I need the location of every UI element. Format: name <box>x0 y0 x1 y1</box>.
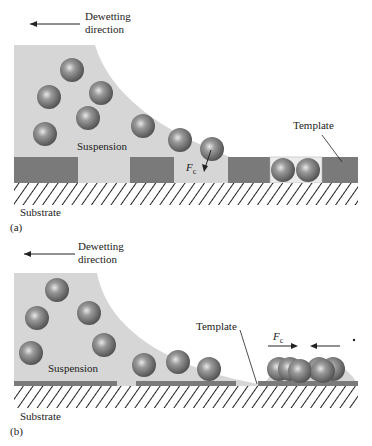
substrate-a <box>14 183 358 205</box>
template-block <box>130 157 174 183</box>
substrate-b <box>14 386 358 408</box>
direction-text: direction <box>78 253 124 266</box>
template-label-a: Template <box>293 119 334 132</box>
substrate-label-a: Substrate <box>20 206 61 219</box>
template-block <box>228 157 270 183</box>
template-strip <box>14 381 117 386</box>
template-label-b: Template <box>196 320 237 333</box>
direction-text: direction <box>85 23 131 36</box>
dewetting-label-a: Dewetting direction <box>85 10 131 36</box>
template-block <box>322 157 358 183</box>
force-label-a: Fc <box>186 161 196 178</box>
dewetting-text: Dewetting <box>85 10 131 23</box>
substrate-label-b: Substrate <box>20 410 61 423</box>
suspension-label-b: Suspension <box>48 362 98 375</box>
dewetting-text: Dewetting <box>78 240 124 253</box>
panel-label-b: (b) <box>10 425 23 438</box>
dewetting-label-b: Dewetting direction <box>78 240 124 266</box>
template-strip <box>136 381 236 386</box>
force-label-b: Fc <box>273 330 283 347</box>
panel-b <box>14 251 358 408</box>
diagram-canvas <box>0 0 372 446</box>
suspension-label-a: Suspension <box>77 140 127 153</box>
dewetting-arrow-a <box>30 21 80 27</box>
template-block <box>14 157 78 183</box>
panel-label-a: (a) <box>10 221 22 234</box>
template-strip <box>258 381 358 386</box>
dewetting-arrow-b <box>24 251 75 257</box>
